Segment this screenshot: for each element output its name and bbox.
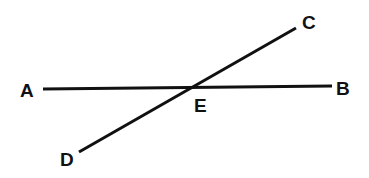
point-label-e: E <box>194 95 207 116</box>
point-label-b: B <box>336 78 350 99</box>
point-label-a: A <box>20 80 34 101</box>
point-label-c: C <box>302 12 316 33</box>
line-segment-dc <box>79 28 296 152</box>
point-label-d: D <box>60 149 74 170</box>
intersecting-lines-diagram: A B C D E <box>0 0 369 178</box>
